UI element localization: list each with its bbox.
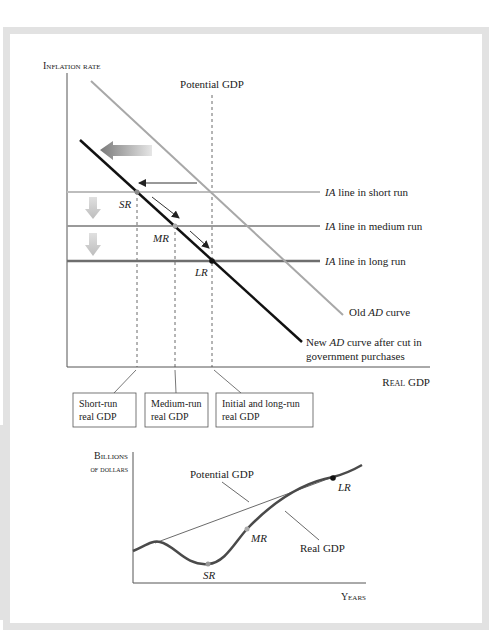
bottom-lr-label: LR (337, 481, 351, 493)
potential-leader (222, 482, 249, 502)
x-axis-label: Real GDP (382, 376, 430, 388)
leader-short (114, 370, 136, 393)
box-long-line1: Initial and long-run (222, 398, 300, 409)
bottom-x-label: Years (341, 591, 366, 602)
ia-long-label: IA line in long run (324, 255, 406, 267)
ad-shift-arrow-icon (100, 141, 152, 160)
bottom-potential-label: Potential GDP (190, 468, 254, 480)
potential-gdp-label: Potential GDP (180, 78, 244, 90)
real-gdp-label: Real GDP (300, 542, 345, 554)
bottom-lr-point (330, 475, 336, 481)
bottom-mr-label: MR (250, 532, 267, 544)
real-gdp-leader (285, 511, 319, 540)
sr-to-mr-arrow-icon (152, 197, 179, 218)
box-short-line1: Short-run (79, 398, 117, 409)
box-medium-line1: Medium-run (151, 398, 202, 409)
bottom-sr-point (206, 562, 211, 567)
mr-label: MR (152, 232, 169, 244)
box-long-line2: real GDP (222, 411, 260, 422)
lr-point (209, 258, 215, 264)
bottom-mr-point (245, 527, 250, 532)
bottom-y-label-1: Billions (94, 450, 128, 461)
y-axis-label: Inflation rate (43, 60, 101, 71)
sr-label: SR (119, 198, 132, 210)
bottom-y-label-2: of dollars (90, 464, 128, 474)
new-ad-curve (80, 140, 302, 342)
lr-label: LR (194, 266, 208, 278)
new-ad-label-line2: government purchases (306, 350, 405, 362)
ia-short-label: IA line in short run (324, 186, 409, 198)
new-ad-label: New AD curve after cut in (306, 336, 422, 348)
mr-to-lr-arrow-icon (190, 231, 209, 248)
box-medium-line2: real GDP (151, 411, 189, 422)
leader-medium (175, 370, 176, 393)
leader-long (214, 370, 241, 393)
sr-point (135, 190, 140, 195)
ia-down-arrow-icon-1 (85, 197, 101, 219)
ia-medium-label: IA line in medium run (324, 220, 423, 232)
bottom-sr-label: SR (203, 569, 216, 581)
mr-point (173, 224, 178, 229)
ia-down-arrow-icon-2 (85, 233, 101, 256)
old-ad-label: Old AD curve (349, 306, 410, 318)
box-short-line2: real GDP (79, 411, 117, 422)
